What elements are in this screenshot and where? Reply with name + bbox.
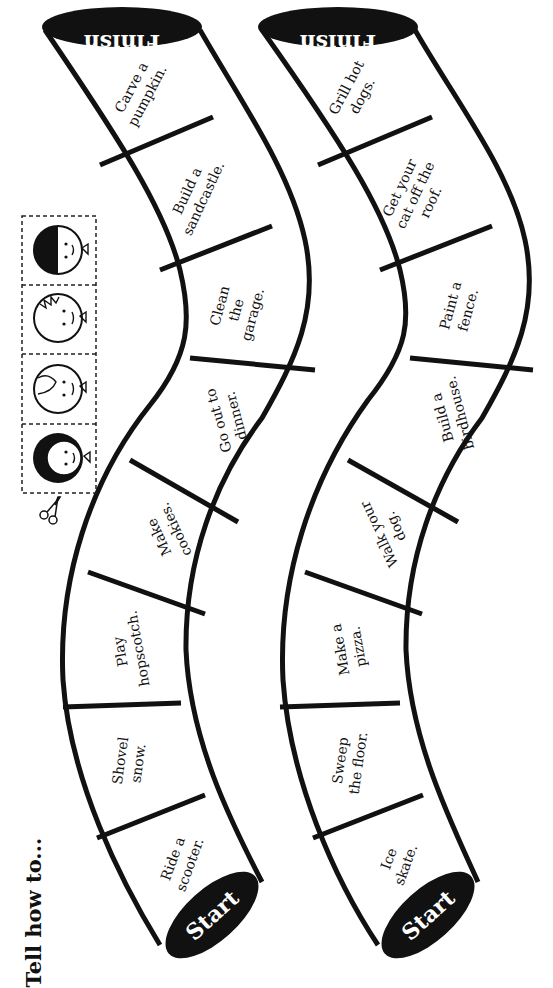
game-piece-spiky-haired-kid[interactable]: [34, 294, 86, 342]
game-piece-girl-with-bow[interactable]: [34, 365, 86, 413]
left-finish-label: Finish: [84, 30, 161, 56]
right-finish-label: Finish: [300, 30, 377, 56]
game-pieces-strip: [22, 216, 96, 524]
scissors-icon: [40, 497, 60, 524]
game-piece-dark-haired-girl[interactable]: [34, 226, 88, 274]
game-piece-curly-haired-kid[interactable]: [33, 433, 90, 483]
right-board: Start Finish Ice skate. Sweep the floor.…: [258, 7, 533, 973]
left-board: Start Finish Ride a scooter. Shovel snow…: [42, 7, 315, 973]
